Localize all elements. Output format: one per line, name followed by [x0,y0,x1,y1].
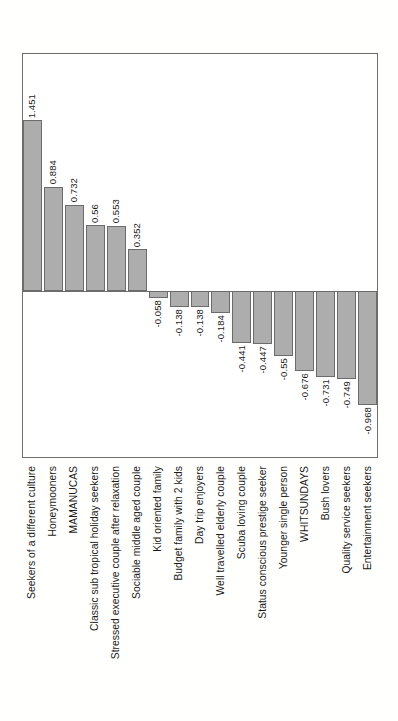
bar-group[interactable]: 0.732 [64,53,85,458]
bar-group[interactable]: -0.749 [336,53,357,458]
bar-value-label: -0.441 [237,345,247,373]
bar-rect[interactable] [86,225,105,291]
category-tick: Stressed executive couple after relaxati… [106,466,127,716]
bar-value-label: 0.732 [69,178,79,202]
category-label: Classic sub tropical holiday seekers [90,466,100,631]
bar-value-label: 1.451 [27,94,37,118]
bar-rect[interactable] [65,205,84,291]
category-tick: Honeymooners [43,466,64,716]
bar-chart-figure: 1.4510.8840.7320.560.5530.352-0.058-0.13… [0,0,398,721]
category-tick: Day trip enjoyers [190,466,211,716]
category-tick: Bush lovers [315,466,336,716]
bar-rect[interactable] [211,291,230,313]
bar-value-label: -0.55 [279,358,289,380]
category-tick: Classic sub tropical holiday seekers [85,466,106,716]
bar-group[interactable]: 0.352 [127,53,148,458]
category-tick: Sociable middle aged couple [127,466,148,716]
category-tick: MAMANUCAS [64,466,85,716]
category-label: Seekers of a different culture [27,466,37,599]
bar-group[interactable]: 0.884 [43,53,64,458]
bars-layer: 1.4510.8840.7320.560.5530.352-0.058-0.13… [22,53,378,458]
bar-value-label: -0.749 [342,381,352,409]
category-label: Day trip enjoyers [195,466,205,544]
category-tick: Scuba loving couple [231,466,252,716]
bar-value-label: -0.447 [258,346,268,374]
bar-rect[interactable] [149,291,168,298]
category-tick: Kid oriented family [148,466,169,716]
bar-rect[interactable] [274,291,293,356]
bar-rect[interactable] [316,291,335,377]
category-tick: Seekers of a different culture [22,466,43,716]
bar-group[interactable]: 1.451 [22,53,43,458]
bar-value-label: 0.553 [111,199,121,223]
category-label: Budget family with 2 kids [174,466,184,581]
bar-rect[interactable] [23,120,42,291]
bar-rect[interactable] [107,226,126,291]
bar-group[interactable]: -0.731 [315,53,336,458]
bar-value-label: 0.884 [48,160,58,184]
category-tick: Well travelled elderly couple [210,466,231,716]
bar-value-label: -0.184 [216,315,226,343]
bar-group[interactable]: -0.138 [190,53,211,458]
category-tick: WHITSUNDAYS [294,466,315,716]
bar-rect[interactable] [253,291,272,344]
category-tick: Younger single person [273,466,294,716]
category-label: Younger single person [279,466,289,569]
bar-group[interactable]: -0.676 [294,53,315,458]
category-label: Well travelled elderly couple [216,466,226,595]
bar-value-label: -0.058 [153,300,163,328]
bar-value-label: -0.138 [174,309,184,337]
bar-group[interactable]: -0.447 [252,53,273,458]
category-label: Bush lovers [320,466,330,520]
bar-rect[interactable] [358,291,377,405]
category-label: WHITSUNDAYS [300,466,310,542]
bar-value-label: -0.968 [363,407,373,435]
category-axis-labels: Seekers of a different cultureHoneymoone… [22,466,378,716]
category-label: Kid oriented family [153,466,163,552]
category-label: Honeymooners [48,466,58,536]
category-label: Quality service seekers [341,466,351,574]
category-label: Status conscious prestige seeker [258,466,268,619]
category-tick: Budget family with 2 kids [169,466,190,716]
bar-rect[interactable] [295,291,314,371]
category-label: Entertainment seekers [362,466,372,570]
bar-group[interactable]: -0.058 [148,53,169,458]
category-label: Scuba loving couple [237,466,247,559]
bar-group[interactable]: -0.55 [273,53,294,458]
bar-group[interactable]: -0.184 [210,53,231,458]
bar-group[interactable]: -0.138 [169,53,190,458]
category-tick: Status conscious prestige seeker [252,466,273,716]
category-tick: Entertainment seekers [357,466,378,716]
category-label: Sociable middle aged couple [132,466,142,599]
bar-value-label: -0.676 [300,373,310,401]
bar-group[interactable]: 0.553 [106,53,127,458]
bar-value-label: -0.731 [321,379,331,407]
bar-rect[interactable] [337,291,356,379]
bar-rect[interactable] [128,249,147,291]
bar-rect[interactable] [170,291,189,307]
bar-group[interactable]: 0.56 [85,53,106,458]
bar-value-label: 0.56 [90,204,100,223]
bar-value-label: -0.138 [195,309,205,337]
category-label: Stressed executive couple after relaxati… [111,466,121,659]
bar-value-label: 0.352 [132,223,142,247]
category-label: MAMANUCAS [69,466,79,533]
bar-group[interactable]: -0.968 [357,53,378,458]
bar-rect[interactable] [191,291,210,307]
bar-rect[interactable] [44,187,63,291]
bar-rect[interactable] [232,291,251,343]
bar-group[interactable]: -0.441 [231,53,252,458]
category-tick: Quality service seekers [336,466,357,716]
